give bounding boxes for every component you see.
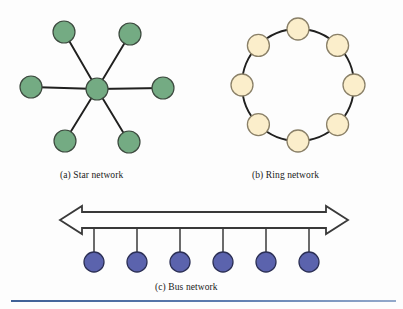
bus-node-6 <box>299 252 319 272</box>
ring-node-bottom-left <box>247 114 269 136</box>
bus-node-3 <box>170 252 190 272</box>
star-leaf-node-bottom-left <box>54 130 76 152</box>
ring-node-left <box>231 74 253 96</box>
bus-bar-double-arrow <box>60 206 348 234</box>
bus-node-2 <box>127 252 147 272</box>
ring-node-right <box>343 74 365 96</box>
star-center-node <box>86 78 108 100</box>
caption-ring-network: (b) Ring network <box>252 170 319 180</box>
ring-node-top <box>287 18 309 40</box>
ring-network-diagram <box>231 18 365 152</box>
network-topologies-figure: (a) Star network (b) Ring network (c) Bu… <box>0 0 403 309</box>
star-leaf-node-right <box>152 77 174 99</box>
bus-nodes <box>84 252 319 272</box>
bus-drop-lines <box>94 228 309 252</box>
ring-node-bottom-right <box>327 114 349 136</box>
star-leaf-node-bottom-right <box>118 131 140 153</box>
bus-node-4 <box>213 252 233 272</box>
star-leaf-node-top-left <box>53 21 75 43</box>
topology-diagram-canvas <box>0 0 403 309</box>
ring-nodes <box>231 18 365 152</box>
star-leaf-node-top-right <box>119 23 141 45</box>
caption-bus-network: (c) Bus network <box>155 282 218 292</box>
star-network-diagram <box>20 21 174 153</box>
bus-node-1 <box>84 252 104 272</box>
ring-node-bottom <box>287 130 309 152</box>
star-leaf-node-left <box>20 76 42 98</box>
bus-network-diagram <box>60 206 348 272</box>
caption-star-network: (a) Star network <box>60 170 123 180</box>
bus-node-5 <box>256 252 276 272</box>
ring-node-top-left <box>247 34 269 56</box>
ring-node-top-right <box>327 34 349 56</box>
bottom-divider-rule <box>11 300 396 302</box>
